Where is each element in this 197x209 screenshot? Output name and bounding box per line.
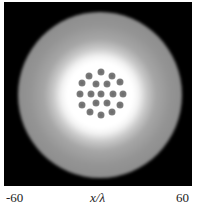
dot: [79, 102, 86, 109]
dot-array: [4, 2, 192, 186]
dot: [93, 81, 100, 88]
dot: [88, 91, 95, 98]
dot: [117, 79, 124, 86]
dot: [109, 73, 116, 80]
x-axis-title: x/λ: [90, 190, 105, 206]
dot: [79, 80, 86, 87]
dot: [110, 91, 117, 98]
intensity-map: [4, 2, 192, 186]
dot: [77, 91, 84, 98]
dot: [120, 91, 127, 98]
x-axis-min-label: -60: [6, 190, 23, 206]
dot: [98, 69, 105, 76]
dot: [98, 112, 105, 119]
dot: [86, 73, 93, 80]
dot: [87, 109, 94, 116]
dot: [104, 100, 111, 107]
dot: [93, 100, 100, 107]
x-axis-max-label: 60: [176, 190, 189, 206]
dot: [117, 102, 124, 109]
dot: [104, 81, 111, 88]
dot: [98, 91, 105, 98]
dot: [109, 109, 116, 116]
